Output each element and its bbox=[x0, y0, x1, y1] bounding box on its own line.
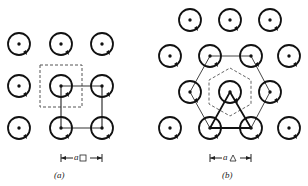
vortex-icon bbox=[8, 75, 30, 97]
scale-bar-b: a bbox=[210, 152, 251, 162]
scale-bar-a: a bbox=[61, 152, 102, 162]
vortex-icon bbox=[50, 33, 72, 55]
scale-label-a: a bbox=[74, 152, 79, 162]
square-subscript-icon bbox=[80, 155, 86, 161]
scale-label-b: a bbox=[223, 152, 228, 162]
vortex-icon bbox=[259, 9, 281, 31]
vortex-icon bbox=[278, 45, 300, 67]
unit-cell-square bbox=[61, 86, 102, 128]
panel-b: a (b) bbox=[159, 9, 300, 180]
vortex-icon bbox=[159, 117, 181, 139]
vortex-icon bbox=[219, 81, 241, 103]
vortex-icon bbox=[8, 33, 30, 55]
vortex-lattice-figure: a (a) a (b) bbox=[0, 0, 308, 186]
unit-cell-triangle bbox=[210, 92, 251, 128]
vortex-icon bbox=[159, 45, 181, 67]
caption-b: (b) bbox=[222, 170, 233, 180]
vortex-icon bbox=[179, 81, 201, 103]
vortex-group-b bbox=[159, 9, 300, 139]
vortex-icon bbox=[91, 33, 113, 55]
vortex-icon bbox=[8, 117, 30, 139]
panel-a: a (a) bbox=[8, 33, 113, 180]
vortex-icon bbox=[179, 9, 201, 31]
triangle-subscript-icon bbox=[230, 155, 236, 161]
vortex-icon bbox=[278, 117, 300, 139]
vortex-icon bbox=[259, 81, 281, 103]
caption-a: (a) bbox=[54, 170, 65, 180]
vortex-icon bbox=[219, 9, 241, 31]
